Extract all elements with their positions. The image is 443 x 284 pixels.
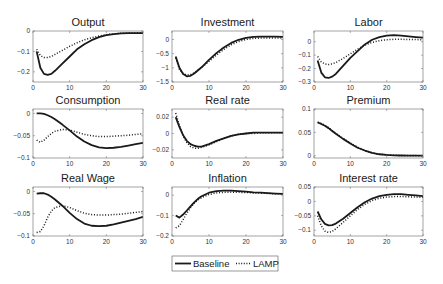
x-tick-label: 30 [139,238,147,245]
series-lamp-line [176,192,283,228]
subplot-title: Output [71,16,104,28]
series-lamp-line [318,197,423,233]
x-tick-label: 0 [312,84,316,91]
subplot-title: Real rate [205,94,250,106]
x-tick-label: 0 [31,160,35,167]
subplot-investment: Investment01020300−0.5−1−1.5 [156,16,287,91]
series-lamp-line [318,39,423,64]
x-tick-label: 10 [347,84,355,91]
x-tick-label: 30 [419,160,427,167]
x-tick-label: 10 [66,160,74,167]
y-tick-label: −0.2 [298,65,311,72]
x-tick-label: 10 [347,160,355,167]
x-tick-label: 10 [205,84,213,91]
series-lamp-line [176,113,283,148]
y-tick-label: 0.02 [156,113,169,120]
series-baseline-line [37,33,143,75]
y-tick-label: −0.3 [298,78,311,85]
x-tick-label: 20 [103,84,111,91]
x-tick-label: 10 [205,238,213,245]
series-baseline-line [176,37,283,77]
legend-lamp-label: LAMP [253,258,279,269]
series-lamp-line [318,122,423,156]
y-tick-label: 0 [165,130,169,137]
y-tick-label: 0 [26,188,30,195]
y-tick-label: −1.5 [156,78,169,85]
subplot-title: Real Wage [61,172,115,184]
irf-figure: Output01020300−0.1−0.2Investment01020300… [0,0,443,284]
x-tick-label: 10 [66,84,74,91]
subplot-real-wage: Real Wage01020300−0.05−0.1 [14,172,147,245]
x-tick-label: 30 [419,238,427,245]
x-tick-label: 10 [347,238,355,245]
series-baseline-line [318,123,423,156]
y-tick-label: 0.05 [298,183,311,190]
x-tick-label: 0 [170,238,174,245]
subplot-title: Investment [201,16,255,28]
y-tick-label: −0.1 [298,226,311,233]
y-tick-label: 0 [26,27,30,34]
x-tick-label: 0 [170,160,174,167]
x-tick-label: 0 [31,238,35,245]
x-tick-label: 20 [242,160,250,167]
series-baseline-line [176,191,283,218]
y-tick-label: −0.1 [17,154,30,161]
axes-box [33,187,143,236]
x-tick-label: 30 [279,160,287,167]
subplot-title: Premium [346,94,390,106]
series-baseline-line [37,113,143,148]
x-tick-label: 20 [383,84,391,91]
x-tick-label: 0 [312,160,316,167]
x-tick-label: 10 [205,160,213,167]
y-tick-label: −0.1 [156,212,169,219]
y-tick-label: −0.05 [14,210,31,217]
legend: Baseline LAMP [172,256,279,271]
series-lamp-line [37,129,143,142]
subplot-real-rate: Real rate01020300.020−0.02 [153,94,287,167]
subplot-premium: Premium01020300.10.050 [298,94,427,167]
y-tick-label: 0 [307,152,311,159]
axes-box [172,187,283,236]
axes-box [314,31,423,82]
x-tick-label: 20 [383,160,391,167]
x-tick-label: 30 [279,238,287,245]
x-tick-label: 30 [419,84,427,91]
y-tick-label: 0.1 [302,105,311,112]
y-tick-label: 0 [165,36,169,43]
x-tick-label: 30 [139,84,147,91]
subplot-inflation: Inflation01020300−0.1−0.2 [156,172,287,245]
series-baseline-line [318,35,423,78]
legend-baseline-label: Baseline [193,258,229,269]
series-baseline-line [318,194,423,225]
x-tick-label: 0 [170,84,174,91]
x-tick-label: 20 [103,238,111,245]
y-tick-label: −0.1 [17,232,30,239]
subplot-labor: Labor01020300−0.1−0.2−0.3 [298,16,427,91]
subplot-title: Interest rate [339,172,398,184]
subplot-output: Output01020300−0.1−0.2 [17,16,147,91]
y-tick-label: 0 [307,38,311,45]
subplot-interest-rate: Interest rate01020300.050−0.05−0.1 [295,172,427,245]
x-tick-label: 20 [103,160,111,167]
y-tick-label: 0 [26,110,30,117]
y-tick-label: −0.02 [153,146,170,153]
series-lamp-line [37,33,143,58]
subplot-title: Inflation [208,172,247,184]
y-tick-label: −1 [162,64,170,71]
series-lamp-line [37,206,143,233]
y-tick-label: −0.2 [156,232,169,239]
y-tick-label: −0.2 [17,68,30,75]
y-tick-label: 0 [307,198,311,205]
x-tick-label: 0 [31,84,35,91]
x-tick-label: 10 [66,238,74,245]
y-tick-label: −0.1 [298,51,311,58]
x-tick-label: 30 [279,84,287,91]
y-tick-label: −0.5 [156,50,169,57]
subplot-consumption: Consumption01020300−0.05−0.1 [14,94,147,167]
axes-box [314,109,423,158]
series-baseline-line [176,117,283,146]
y-tick-label: −0.05 [295,212,312,219]
y-tick-label: −0.05 [14,132,31,139]
y-tick-label: 0 [165,191,169,198]
subplot-grid: Output01020300−0.1−0.2Investment01020300… [14,16,427,245]
